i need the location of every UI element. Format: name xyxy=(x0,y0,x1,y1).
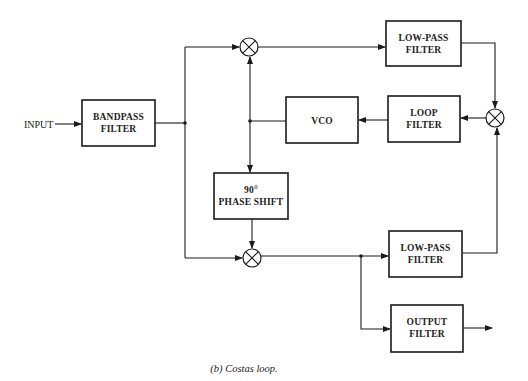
svg-text:FILTER: FILTER xyxy=(406,120,442,130)
svg-text:FILTER: FILTER xyxy=(101,124,137,134)
svg-text:BANDPASS: BANDPASS xyxy=(93,112,144,122)
input-label: INPUT xyxy=(24,119,53,130)
svg-text:FILTER: FILTER xyxy=(406,45,442,55)
to-output-filter-wire xyxy=(361,256,390,329)
svg-text:LOW-PASS: LOW-PASS xyxy=(400,243,450,253)
figure-caption: (b) Costas loop. xyxy=(210,363,277,375)
svg-text:VCO: VCO xyxy=(311,116,333,126)
svg-text:FILTER: FILTER xyxy=(409,329,445,339)
bottom-mixer-icon xyxy=(243,249,261,267)
svg-text:PHASE SHIFT: PHASE SHIFT xyxy=(219,197,284,207)
svg-text:OUTPUT: OUTPUT xyxy=(407,317,448,327)
costas-loop-diagram: INPUT BANDPASS FILTER LOW-PASS FILTER LO… xyxy=(0,0,528,381)
output-filter-block: OUTPUT FILTER xyxy=(391,305,463,352)
svg-text:90°: 90° xyxy=(244,185,258,195)
vco-block: VCO xyxy=(286,97,358,143)
svg-text:LOW-PASS: LOW-PASS xyxy=(398,33,448,43)
loop-filter-block: LOOP FILTER xyxy=(388,96,460,142)
low-pass-filter-bottom-block: LOW-PASS FILTER xyxy=(389,231,462,277)
lpf-bottom-to-right-mixer-wire xyxy=(462,128,497,253)
right-mixer-icon xyxy=(486,109,504,127)
svg-text:LOOP: LOOP xyxy=(410,108,438,118)
low-pass-filter-top-block: LOW-PASS FILTER xyxy=(386,21,461,66)
bandpass-filter-block: BANDPASS FILTER xyxy=(82,100,155,146)
lpf-top-to-right-mixer-wire xyxy=(461,43,495,108)
phase-shift-block: 90° PHASE SHIFT xyxy=(214,173,288,219)
top-mixer-icon xyxy=(240,38,258,56)
svg-text:FILTER: FILTER xyxy=(408,255,444,265)
